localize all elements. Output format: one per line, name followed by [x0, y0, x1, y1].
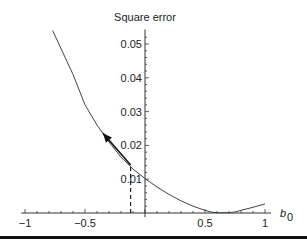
- x-tick-label: −0.5: [74, 217, 96, 229]
- y-tick-label: 0.03: [121, 106, 142, 118]
- curve: [53, 31, 265, 213]
- x-axis-label: b: [280, 207, 286, 219]
- x-tick-label: 1: [262, 217, 268, 229]
- y-tick-label: 0.04: [121, 72, 142, 84]
- bottom-border-bar: [0, 236, 307, 239]
- x-tick-label: −1: [19, 217, 32, 229]
- chart-title: Square error: [114, 11, 176, 23]
- x-axis-label-subscript: 0: [287, 211, 293, 223]
- y-tick-label: 0.05: [121, 38, 142, 50]
- square-error-chart: −1−0.50.510.010.020.030.040.05Square err…: [0, 0, 307, 242]
- x-tick-label: 0.5: [197, 217, 212, 229]
- labels: −1−0.50.510.010.020.030.040.05Square err…: [19, 11, 293, 229]
- y-tick-label: 0.01: [121, 173, 142, 185]
- error-curve: [53, 31, 265, 213]
- axes: [21, 29, 271, 217]
- y-tick-label: 0.02: [121, 139, 142, 151]
